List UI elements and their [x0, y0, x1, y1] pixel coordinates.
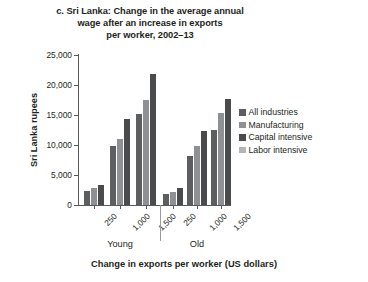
- bar: [201, 131, 207, 205]
- chart-legend: All industriesManufacturingCapital inten…: [239, 106, 312, 156]
- y-tick-mark: [74, 205, 78, 206]
- bar: [187, 156, 193, 205]
- bar: [163, 194, 169, 205]
- legend-item: All industries: [239, 106, 312, 119]
- bars-layer: [78, 55, 230, 205]
- bar: [136, 114, 142, 205]
- x-tick-label: 250: [181, 211, 198, 228]
- bar: [211, 130, 217, 205]
- bar: [143, 100, 149, 205]
- legend-swatch-icon: [239, 122, 246, 129]
- legend-item: Manufacturing: [239, 119, 312, 132]
- x-tick-mark: [197, 205, 198, 209]
- legend-swatch-icon: [239, 109, 246, 116]
- x-tick-label: 1,500: [231, 211, 253, 233]
- chart-title-line-2: wage after an increase in exports: [34, 17, 266, 29]
- x-tick-mark: [146, 205, 147, 209]
- x-tick-mark: [173, 205, 174, 209]
- bar: [177, 188, 183, 205]
- y-tick-label: 15,000: [46, 110, 72, 120]
- y-tick-label: 20,000: [46, 80, 72, 90]
- page-title: c. Sri Lanka: Change in the average annu…: [34, 5, 266, 42]
- x-tick-label: 1,000: [130, 211, 152, 233]
- legend-item: Capital intensive: [239, 131, 312, 144]
- bar: [91, 188, 97, 205]
- legend-label: Labor intensive: [249, 146, 308, 155]
- chart-title-line-1: c. Sri Lanka: Change in the average annu…: [34, 5, 266, 17]
- x-group-label: Young: [90, 239, 150, 249]
- bar: [225, 99, 231, 205]
- legend-swatch-icon: [239, 134, 246, 141]
- bar: [84, 191, 90, 205]
- x-tick-mark: [94, 205, 95, 209]
- bar-cluster: [109, 55, 131, 205]
- bar-cluster: [186, 55, 208, 205]
- y-tick-label: 25,000: [46, 50, 72, 60]
- legend-item: Labor intensive: [239, 144, 312, 157]
- bar-cluster: [135, 55, 157, 205]
- legend-swatch-icon: [239, 147, 246, 154]
- x-group-label: Old: [167, 239, 227, 249]
- x-axis-line: [78, 205, 231, 206]
- chart-title-line-3: per worker, 2002–13: [34, 29, 266, 41]
- y-tick-label: 10,000: [46, 140, 72, 150]
- bar: [218, 113, 224, 205]
- bar: [110, 146, 116, 205]
- legend-label: Manufacturing: [249, 121, 304, 130]
- bar: [117, 139, 123, 205]
- bar-cluster: [210, 55, 232, 205]
- y-tick-label: 0: [67, 200, 72, 210]
- x-tick-mark: [120, 205, 121, 209]
- bar-cluster: [83, 55, 105, 205]
- legend-label: Capital intensive: [249, 133, 313, 142]
- bar: [124, 119, 130, 205]
- plot-area: Sri Lanka rupees 25,00020,00015,00010,00…: [78, 55, 230, 205]
- y-tick-label: 5,000: [51, 170, 72, 180]
- bar: [98, 185, 104, 205]
- bar: [170, 192, 176, 205]
- bar: [194, 146, 200, 205]
- bar: [150, 74, 156, 205]
- bar-cluster: [162, 55, 184, 205]
- group-divider: [160, 205, 161, 241]
- x-tick-label: 1,000: [207, 211, 229, 233]
- legend-label: All industries: [249, 108, 298, 117]
- x-axis-title: Change in exports per worker (US dollars…: [0, 259, 368, 269]
- y-axis-title: Sri Lanka rupees: [29, 93, 39, 167]
- x-tick-mark: [221, 205, 222, 209]
- x-tick-label: 250: [102, 211, 119, 228]
